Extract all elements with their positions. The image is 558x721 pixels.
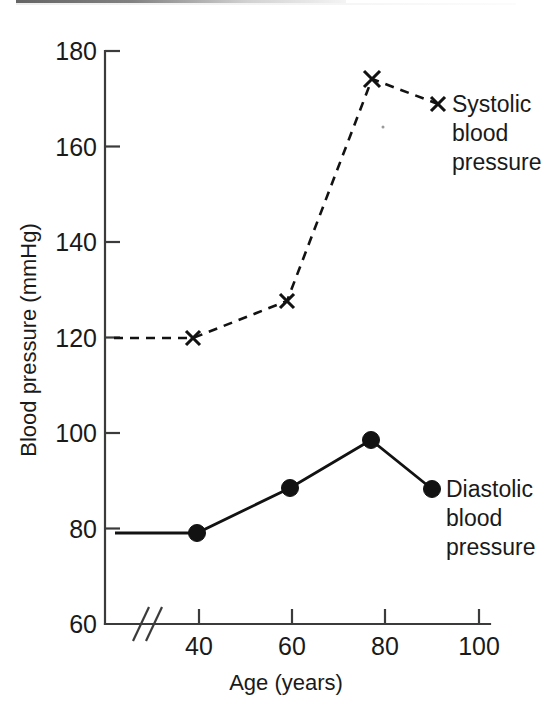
diastolic-label-line-1: Diastolic (446, 476, 533, 502)
x-tick-label-80: 80 (371, 632, 399, 660)
y-tick-label-140: 140 (55, 228, 97, 256)
diastolic-label-line-3: pressure (446, 534, 535, 560)
x-tick-label-60: 60 (278, 632, 306, 660)
systolic-line (114, 79, 438, 338)
systolic-marker-age-59 (280, 294, 294, 308)
diastolic-marker-age-40 (189, 525, 206, 542)
figure-container: 180 160 140 120 100 80 60 40 60 80 100 (0, 0, 558, 721)
x-axis-tick-labels: 40 60 80 100 (185, 632, 500, 660)
diastolic-series-label: Diastolic blood pressure (446, 476, 535, 560)
diastolic-label-line-2: blood (446, 505, 502, 531)
scan-speck (382, 126, 385, 129)
systolic-marker-age-91 (431, 97, 445, 111)
x-tick-label-100: 100 (458, 632, 500, 660)
y-tick-label-60: 60 (69, 610, 97, 638)
diastolic-marker-age-90 (424, 481, 441, 498)
series-systolic (114, 71, 445, 345)
y-tick-label-100: 100 (55, 419, 97, 447)
x-axis-ticks (199, 609, 479, 624)
y-axis-tick-labels: 180 160 140 120 100 80 60 (55, 37, 97, 638)
y-tick-label-80: 80 (69, 515, 97, 543)
x-axis-title: Age (years) (229, 670, 343, 695)
systolic-label-line-3: pressure (452, 149, 541, 175)
diastolic-marker-age-77 (363, 432, 380, 449)
y-tick-label-160: 160 (55, 133, 97, 161)
systolic-series-label: Systolic blood pressure (452, 91, 541, 175)
blood-pressure-line-chart: 180 160 140 120 100 80 60 40 60 80 100 (0, 0, 558, 721)
systolic-label-line-1: Systolic (452, 91, 531, 117)
y-axis-ticks (105, 51, 120, 529)
y-tick-label-120: 120 (55, 324, 97, 352)
diastolic-line (115, 440, 432, 533)
y-tick-label-180: 180 (55, 37, 97, 65)
y-axis-title: Blood pressure (mmHg) (16, 223, 41, 457)
x-tick-label-40: 40 (185, 632, 213, 660)
systolic-label-line-2: blood (452, 120, 508, 146)
diastolic-marker-age-60 (282, 480, 299, 497)
series-diastolic (115, 432, 441, 542)
systolic-marker-age-40 (186, 331, 200, 345)
systolic-marker-age-77 (364, 71, 380, 87)
